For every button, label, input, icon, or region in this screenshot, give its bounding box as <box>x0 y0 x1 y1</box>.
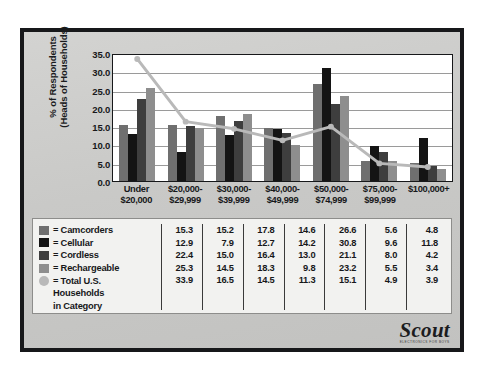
table-cell: 5.5 <box>366 262 406 275</box>
x-axis-category-labels: Under$20,000$20,000-$29,999$30,000-$39,9… <box>112 184 453 206</box>
table-cell: 22.4 <box>162 249 202 262</box>
x-axis-label: $30,000-$39,999 <box>209 184 258 206</box>
legend-label: = Rechargeable <box>53 263 119 273</box>
x-axis-label-line1: $20,000- <box>161 184 210 195</box>
y-axis-tick-15-0: 15.0 <box>72 122 110 133</box>
legend-row: = Cellular <box>39 237 157 250</box>
table-cell: 33.9 <box>162 274 202 287</box>
line-marker <box>280 137 286 143</box>
x-axis-label: $75,000-$99,999 <box>356 184 405 206</box>
y-axis-tick-10-0: 10.0 <box>72 140 110 151</box>
line-marker <box>376 160 382 166</box>
x-axis-label-line1: Under <box>112 184 161 195</box>
table-cell: 26.6 <box>325 224 365 237</box>
x-axis-label-line2: $49,999 <box>258 195 307 206</box>
table-cell: 14.2 <box>285 237 325 250</box>
x-axis-label-line1: $75,000- <box>356 184 405 195</box>
legend-column: = Camcorders= Cellular= Cordless= Rechar… <box>39 224 157 312</box>
legend-label: = Cellular <box>53 238 93 248</box>
table-cell: 9.6 <box>366 237 406 250</box>
chart-figure-frame: % of Respondents (Heads of Households) 0… <box>20 28 464 352</box>
line-total-us-households <box>137 59 427 167</box>
plot-area <box>112 54 453 182</box>
swatch-total-us-households-icon <box>39 276 49 286</box>
table-cell: 3.9 <box>407 274 447 287</box>
table-cell: 15.3 <box>162 224 202 237</box>
y-axis-title-line1: % of Respondents <box>47 36 58 117</box>
x-axis-label-line1: $50,000- <box>307 184 356 195</box>
legend-label-continuation: in Category <box>53 300 157 313</box>
table-cell: 16.5 <box>203 274 243 287</box>
y-axis-title: % of Respondents (Heads of Households) <box>47 19 69 135</box>
table-cell: 9.8 <box>285 262 325 275</box>
x-axis-label-line2: $20,000 <box>112 195 161 206</box>
y-axis-tick-30-0: 30.0 <box>72 67 110 78</box>
table-cell: 7.9 <box>203 237 243 250</box>
legend-row: = Rechargeable <box>39 262 157 275</box>
table-cell: 8.0 <box>366 249 406 262</box>
table-cell: 12.7 <box>244 237 284 250</box>
x-axis-label-line1: $40,000- <box>258 184 307 195</box>
x-axis-label-line1: $30,000- <box>209 184 258 195</box>
x-axis-label-line2: $74,999 <box>307 195 356 206</box>
x-axis-label: $40,000-$49,999 <box>258 184 307 206</box>
table-cell: 4.9 <box>366 274 406 287</box>
value-columns: 15.312.922.425.333.915.27.915.014.516.51… <box>161 224 447 310</box>
screenshot-canvas: % of Respondents (Heads of Households) 0… <box>0 0 482 366</box>
line-marker <box>134 56 140 62</box>
legend-row: = Total U.S. <box>39 274 157 287</box>
x-axis-label: $50,000-$74,999 <box>307 184 356 206</box>
table-column: 26.630.821.123.215.1 <box>324 224 365 310</box>
table-column: 4.811.84.23.43.9 <box>406 224 447 310</box>
table-cell: 23.2 <box>325 262 365 275</box>
scout-logo-subtitle: ELECTRONICS FOR BOYS <box>399 340 450 344</box>
line-marker <box>183 119 189 125</box>
table-cell: 15.0 <box>203 249 243 262</box>
line-marker <box>231 126 237 132</box>
x-axis-label-line2: $99,999 <box>356 195 405 206</box>
table-cell: 11.3 <box>285 274 325 287</box>
table-cell: 4.2 <box>407 249 447 262</box>
legend-row: = Cordless <box>39 249 157 262</box>
legend-label: = Camcorders <box>53 225 113 235</box>
legend-label: = Total U.S. <box>53 276 101 286</box>
swatch-rechargeable-icon <box>39 264 49 273</box>
x-axis-label-line2: $29,999 <box>161 195 210 206</box>
scout-logo-wordmark: Scout <box>399 320 450 341</box>
line-marker <box>328 124 334 130</box>
table-cell: 15.1 <box>325 274 365 287</box>
total-households-line-series <box>113 55 452 181</box>
table-cell: 14.5 <box>203 262 243 275</box>
swatch-camcorders-icon <box>39 226 49 235</box>
x-axis-label: Under$20,000 <box>112 184 161 206</box>
y-axis-tick-20-0: 20.0 <box>72 103 110 114</box>
table-column: 15.312.922.425.333.9 <box>161 224 202 310</box>
x-axis-label-line2: $39,999 <box>209 195 258 206</box>
table-cell: 18.3 <box>244 262 284 275</box>
x-axis-label-line1: $100,000+ <box>404 184 453 195</box>
table-cell: 15.2 <box>203 224 243 237</box>
legend-row: = Camcorders <box>39 224 157 237</box>
legend-label-continuation: Households <box>53 287 157 300</box>
table-cell: 4.8 <box>407 224 447 237</box>
table-cell: 16.4 <box>244 249 284 262</box>
grouped-bar-chart: % of Respondents (Heads of Households) 0… <box>24 32 460 204</box>
table-column: 17.812.716.418.314.5 <box>243 224 284 310</box>
y-axis-tick-25-0: 25.0 <box>72 85 110 96</box>
table-column: 5.69.68.05.54.9 <box>365 224 406 310</box>
x-axis-label: $100,000+ <box>404 184 453 206</box>
table-cell: 21.1 <box>325 249 365 262</box>
y-axis-tick-5-0: 5.0 <box>72 158 110 169</box>
table-cell: 17.8 <box>244 224 284 237</box>
table-cell: 30.8 <box>325 237 365 250</box>
table-cell: 11.8 <box>407 237 447 250</box>
scout-logo: Scout ELECTRONICS FOR BOYS <box>399 320 450 344</box>
x-axis-label: $20,000-$29,999 <box>161 184 210 206</box>
y-axis-tick-0-0: 0.0 <box>72 177 110 188</box>
table-cell: 5.6 <box>366 224 406 237</box>
table-cell: 14.5 <box>244 274 284 287</box>
legend-label: = Cordless <box>53 250 99 260</box>
swatch-cellular-icon <box>39 238 49 247</box>
table-cell: 12.9 <box>162 237 202 250</box>
table-cell: 14.6 <box>285 224 325 237</box>
